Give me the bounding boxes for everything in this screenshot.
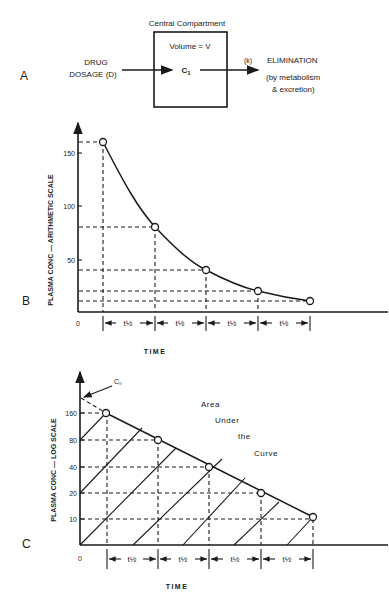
svg-text:20: 20 — [69, 490, 77, 497]
data-point — [307, 298, 314, 305]
panel-c-ylabel: PLASMA CONC — LOG SCALE — [50, 418, 57, 522]
panel-a-compartment-model: A Central Compartment Volume = V C1 DRUG… — [20, 19, 321, 107]
half-life-label: t½ — [176, 319, 185, 328]
half-life-label: t½ — [228, 319, 237, 328]
dosage-label: DOSAGE (D) — [69, 70, 117, 79]
half-life-label: t½ — [124, 319, 133, 328]
half-life-label: t½ — [231, 555, 240, 564]
panel-b-guides — [79, 142, 310, 312]
panel-b-half-life-row: t½ t½ t½ t½ — [103, 316, 310, 331]
half-life-label: t½ — [179, 555, 188, 564]
auc-annotation: Area Under the Curve — [201, 400, 278, 458]
panel-b-xlabel: TIME — [144, 348, 167, 355]
elimination-detail-1: (by metabolism — [266, 73, 321, 82]
svg-text:100: 100 — [63, 203, 75, 210]
svg-text:150: 150 — [63, 150, 75, 157]
half-life-label: t½ — [280, 319, 289, 328]
c0-label: C₀ — [114, 378, 122, 385]
rate-constant-label: (k) — [244, 57, 252, 65]
panel-c-origin: 0 — [78, 555, 82, 562]
svg-text:Under: Under — [215, 416, 239, 425]
auc-hatching — [80, 413, 313, 545]
panel-b-ylabel: PLASMA CONC — ARITHMETIC SCALE — [47, 174, 54, 306]
panel-c-half-life-row: t½ t½ t½ t½ — [107, 549, 313, 569]
data-point — [152, 224, 159, 231]
data-point — [203, 267, 210, 274]
extrapolation-line — [81, 398, 106, 413]
half-life-label: t½ — [283, 555, 292, 564]
data-point — [255, 288, 262, 295]
svg-text:80: 80 — [69, 437, 77, 444]
svg-text:Area: Area — [201, 400, 220, 409]
panel-b-arithmetic-chart: B PLASMA CONC — ARITHMETIC SCALE 150 100… — [22, 123, 388, 355]
svg-text:the: the — [238, 432, 251, 441]
drug-label: DRUG — [84, 58, 108, 67]
svg-text:Curve: Curve — [254, 449, 278, 458]
svg-text:160: 160 — [65, 410, 77, 417]
data-point — [310, 514, 317, 521]
panel-b-yticks: 150 100 50 — [63, 150, 82, 264]
svg-text:10: 10 — [69, 516, 77, 523]
data-point — [206, 464, 213, 471]
concentration-label: C1 — [181, 66, 191, 76]
compartment-title: Central Compartment — [149, 19, 226, 28]
svg-text:50: 50 — [67, 257, 75, 264]
panel-c-xlabel: TIME — [166, 583, 189, 590]
elimination-title: ELIMINATION — [267, 56, 318, 65]
panel-a-label: A — [20, 69, 28, 83]
panel-c-guides — [81, 398, 313, 545]
panel-c-log-chart: C PLASMA CONC — LOG SCALE — [22, 372, 388, 590]
data-point — [258, 490, 265, 497]
data-point — [155, 437, 162, 444]
panel-b-label: B — [22, 294, 30, 308]
panel-c-yticks: 160 80 40 20 10 — [65, 410, 84, 523]
svg-text:40: 40 — [69, 464, 77, 471]
data-point — [100, 139, 107, 146]
panel-c-label: C — [22, 537, 31, 551]
data-point — [103, 410, 110, 417]
c0-arrow — [84, 386, 112, 397]
volume-label: Volume = V — [169, 42, 211, 51]
elimination-detail-2: & excretion) — [272, 85, 315, 94]
pharmacokinetics-figure: A Central Compartment Volume = V C1 DRUG… — [0, 0, 389, 604]
half-life-label: t½ — [128, 555, 137, 564]
panel-b-origin: 0 — [76, 320, 80, 327]
